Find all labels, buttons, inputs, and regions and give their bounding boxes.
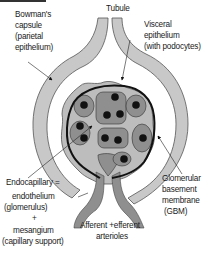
label-endocapillary: Endocapillary = bbox=[6, 176, 60, 187]
label-tubule: Tubule bbox=[106, 2, 130, 13]
glomerulus-diagram: Tubule Bowman's capsule (parietal epithe… bbox=[0, 0, 208, 254]
label-plus: + bbox=[32, 212, 37, 223]
